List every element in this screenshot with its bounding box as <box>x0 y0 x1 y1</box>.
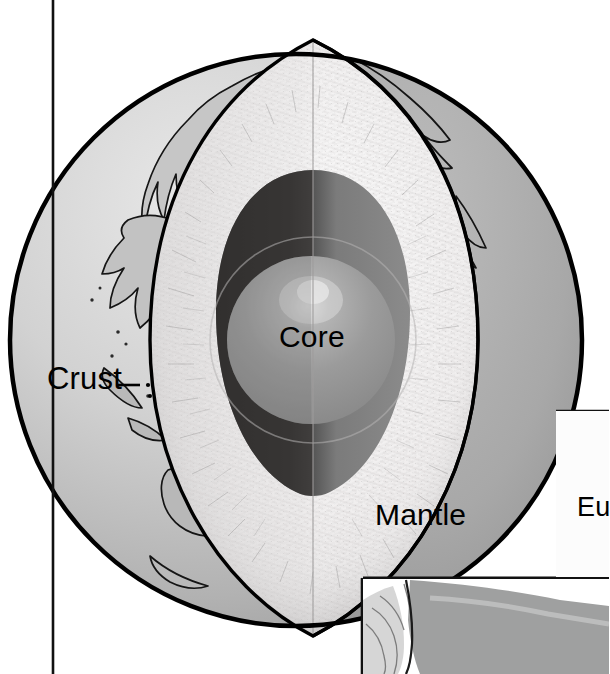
layer-label-core: Core <box>279 322 345 352</box>
layer-label-mantle: Mantle <box>375 500 466 530</box>
adjacent-panel-label: Eu <box>577 494 610 521</box>
layer-label-crust: Crust <box>47 363 122 394</box>
adjacent-figure-bottom-right <box>363 579 609 674</box>
